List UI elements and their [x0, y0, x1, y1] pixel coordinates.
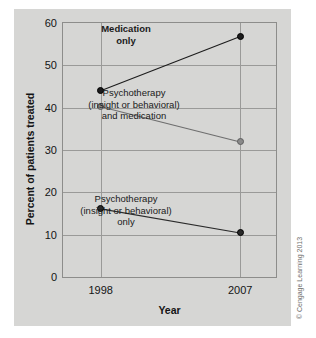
annotation-combined-line-3: and medication	[88, 110, 179, 122]
annotation-medication-line-2: only	[101, 35, 151, 47]
x-axis-title: Year	[62, 304, 277, 316]
data-point-medication-2007	[237, 33, 244, 40]
annotation-psychotherapy-and-medication: Psychotherapy (insight or behavioral) an…	[88, 87, 179, 122]
y-tick-label-50: 50	[45, 59, 57, 71]
y-tick-label-10: 10	[45, 229, 57, 241]
annotation-psychotherapy-line-1: Psychotherapy	[80, 193, 171, 205]
annotation-medication-only: Medication only	[101, 23, 151, 46]
y-tick-label-30: 30	[45, 144, 57, 156]
plot-area: 60 50 40 30 20 10 0 1998 2007	[62, 22, 277, 278]
y-tick-label-0: 0	[51, 271, 57, 283]
annotation-psychotherapy-only: Psychotherapy (insight or behavioral) on…	[80, 193, 171, 228]
y-tick-label-40: 40	[45, 102, 57, 114]
y-axis-title: Percent of patients treated	[24, 93, 36, 225]
y-tick-label-60: 60	[45, 17, 57, 29]
annotation-combined-line-2: (insight or behavioral)	[88, 99, 179, 111]
annotation-combined-line-1: Psychotherapy	[88, 87, 179, 99]
series-container	[63, 23, 276, 277]
x-tick-label-2007: 2007	[228, 284, 252, 296]
y-tick-label-20: 20	[45, 186, 57, 198]
copyright-credit: © Cengage Learning 2013	[296, 237, 303, 319]
x-tick-label-1998: 1998	[88, 284, 112, 296]
annotation-psychotherapy-line-2: (insight or behavioral)	[80, 205, 171, 217]
annotation-medication-line-1: Medication	[101, 23, 151, 35]
figure-panel: Percent of patients treated 60 50 40 30 …	[14, 9, 291, 326]
annotation-psychotherapy-line-3: only	[80, 216, 171, 228]
